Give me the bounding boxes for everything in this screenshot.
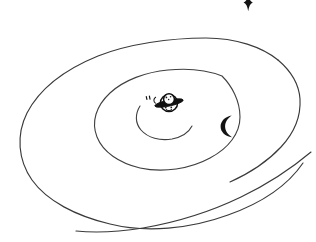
spiral-galaxy-drawing [0, 0, 316, 242]
planet-surface-speck [166, 97, 168, 99]
planet-surface-speck [168, 99, 170, 101]
artwork-canvas: Spiral Galaxy Sketch [0, 0, 316, 242]
planet-surface-speck [170, 96, 172, 98]
spark-mark [149, 96, 150, 99]
spark-mark [146, 97, 147, 100]
planet-surface-speck [165, 107, 167, 109]
canvas-background [0, 0, 316, 242]
planet-surface-speck [170, 107, 172, 109]
